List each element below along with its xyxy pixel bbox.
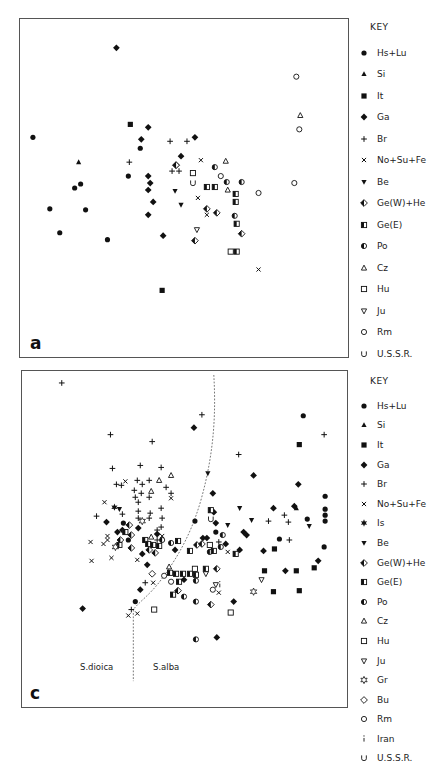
data-point-open-circle [218,173,223,178]
legend-item: It [358,85,430,107]
open-down-triangle-icon [358,655,370,667]
open-circle-icon [358,326,370,338]
legend-title: KEY [370,376,430,386]
data-point-i [219,581,220,587]
half-circle-icon [358,240,370,252]
data-point-cross [101,542,105,546]
data-point-filled-down-triangle [117,507,122,512]
data-point-plus [149,439,155,445]
legend-item: Ga [358,107,430,129]
data-point-plus [108,432,114,438]
legend-label: Br [377,134,387,144]
legend-label: Bu [377,695,389,705]
data-point-filled-circle [138,146,143,151]
legend-label: Rm [377,327,392,337]
data-point-filled-diamond [135,525,142,532]
scatter-panel-a: a [19,18,349,358]
data-point-filled-diamond [230,598,237,605]
data-point-plus [131,487,137,493]
panel-label-a: a [30,333,41,353]
data-point-filled-square [271,589,276,594]
data-point-half-square [157,543,162,548]
data-point-half-diamond [207,601,214,608]
data-point-open-triangle [168,473,173,478]
data-point-plus [94,513,100,519]
data-point-open-square [228,249,233,254]
data-point-half-circle [168,540,173,545]
data-point-half-square [170,592,175,597]
data-point-open-circle [256,190,261,195]
filled-circle-icon [358,47,370,59]
data-point-filled-diamond [160,232,167,239]
data-point-plus [236,452,242,458]
legend-label: Hu [377,284,389,294]
data-point-u [209,517,214,522]
legend-title: KEY [370,22,430,32]
data-point-filled-diamond [250,472,257,479]
data-point-half-diamond [128,532,135,539]
legend-item: Be [358,171,430,193]
data-point-half-square [208,508,213,513]
data-point-half-diamond [238,230,245,237]
data-point-plus [286,519,292,525]
filled-square-icon [358,90,370,102]
legend-label: No+Su+Fe [377,155,426,165]
legend-item: Po [358,236,430,258]
data-point-half-square [193,572,198,577]
data-point-filled-diamond [147,180,154,187]
open-square-icon [358,635,370,647]
data-point-filled-diamond [295,481,302,488]
data-point-half-square [233,199,238,204]
data-point-cross [217,591,221,595]
data-point-filled-diamond [79,605,86,612]
half-diamond-icon [358,197,370,209]
data-point-filled-diamond [103,519,110,526]
data-point-cross [102,500,106,504]
data-point-half-square [233,551,238,556]
legend-item: Ge(W)+He [358,553,430,573]
legend-label: Cz [377,263,388,273]
data-point-filled-circle [57,230,62,235]
data-point-filled-diamond [144,561,151,568]
data-point-filled-down-triangle [172,189,177,194]
legend-label: Hs+Lu [377,401,407,411]
legend-item: Hs+Lu [358,42,430,64]
data-point-filled-circle [305,517,310,522]
data-point-plus [132,494,138,500]
data-point-half-circle [181,594,186,599]
data-point-plus [139,481,145,487]
cross-icon [358,154,370,166]
data-point-plus [146,515,152,521]
data-point-half-square [234,249,239,254]
legend-item: Si [358,64,430,86]
data-point-filled-diamond [282,567,289,574]
legend-label: Ga [377,460,390,470]
data-point-open-triangle [149,488,154,493]
scatter-plot-a [20,19,348,357]
data-point-open-triangle [167,564,172,569]
data-point-filled-diamond [209,490,216,497]
legend-label: U.S.S.R. [377,753,412,763]
data-point-plus [168,490,174,496]
filled-square-icon [358,439,370,451]
open-square-icon [358,283,370,295]
data-point-open-circle [292,180,297,185]
data-point-u [191,180,196,185]
open-star-icon [358,674,370,686]
open-triangle-icon [358,262,370,274]
half-square-icon [358,576,370,588]
cross-icon [358,498,370,510]
data-point-filled-circle [121,521,126,526]
data-point-plus [321,432,327,438]
data-point-half-circle [193,578,198,583]
legend-label: Br [377,479,387,489]
data-point-filled-diamond [154,531,161,538]
legend-item: Br [358,474,430,494]
data-point-filled-diamond [178,153,185,160]
u-icon [358,348,370,360]
data-point-cross [151,581,155,585]
data-point-filled-diamond [204,535,211,542]
data-point-cross [89,540,93,544]
data-point-half-circle [160,537,165,542]
data-point-plus [169,168,175,174]
